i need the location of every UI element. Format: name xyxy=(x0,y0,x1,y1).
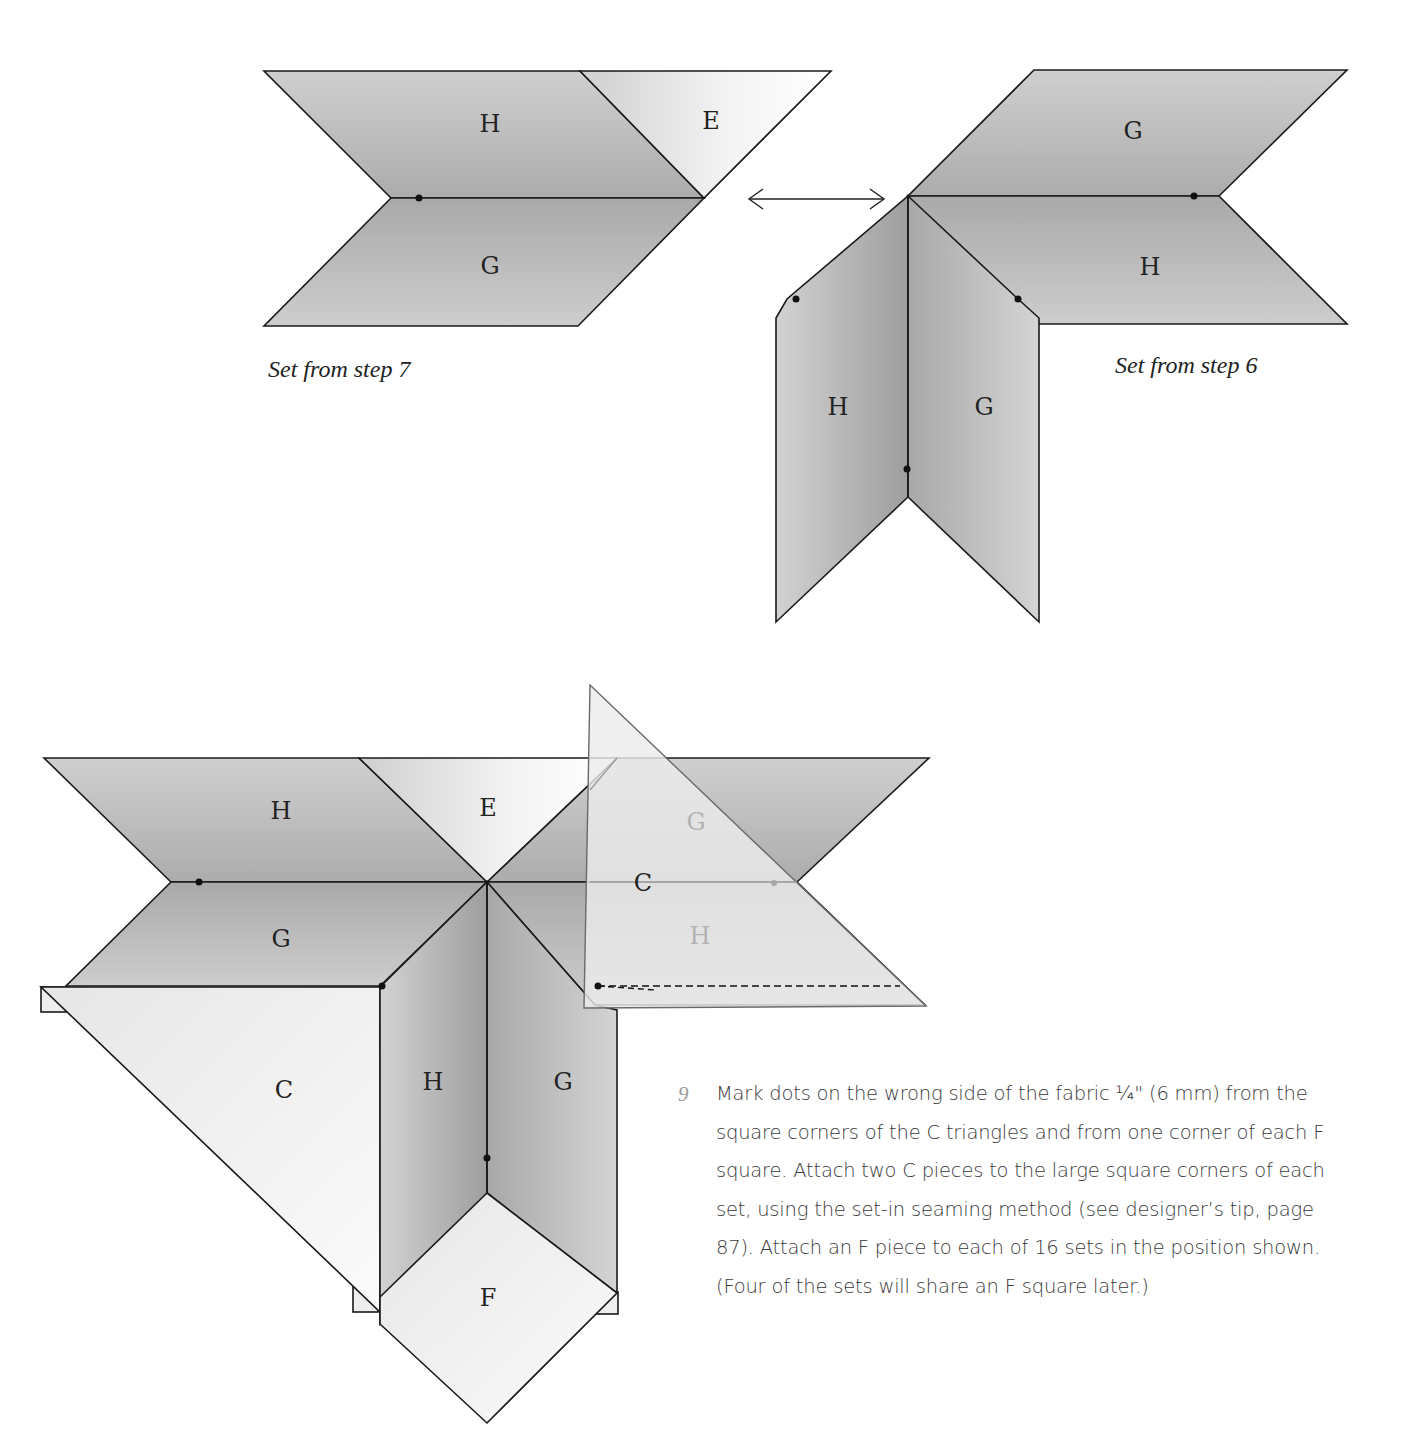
label-h: H xyxy=(1140,253,1161,281)
label-h: H xyxy=(828,393,849,421)
label-g: G xyxy=(974,393,993,421)
set-from-step-6-figure xyxy=(776,70,1347,622)
caption-set-from-step-7: Set from step 7 xyxy=(268,356,410,383)
label-c: C xyxy=(275,1076,293,1104)
label-e: E xyxy=(479,794,497,822)
seam-dot xyxy=(1015,296,1022,303)
label-g: G xyxy=(271,925,290,953)
label-h: H xyxy=(480,110,501,138)
step-text: Mark dots on the wrong side of the fabri… xyxy=(716,1075,1356,1306)
label-c: C xyxy=(634,869,652,897)
seam-dot xyxy=(196,879,203,886)
step-number: 9 xyxy=(678,1075,689,1113)
label-h: H xyxy=(271,797,292,825)
seam-dot xyxy=(416,195,423,202)
label-g-faint: G xyxy=(686,808,705,836)
piece-c-right xyxy=(584,685,926,1008)
seam-dot xyxy=(904,466,911,473)
label-h-faint: H xyxy=(690,922,711,950)
label-h: H xyxy=(423,1068,444,1096)
seam-dot xyxy=(595,983,602,990)
label-g: G xyxy=(1123,117,1142,145)
seam-dot xyxy=(484,1155,491,1162)
set-from-step-7-figure xyxy=(264,71,831,326)
seam-dot xyxy=(1191,193,1198,200)
piece-c-left xyxy=(41,987,380,1312)
double-headed-arrow-icon xyxy=(749,189,884,209)
label-e: E xyxy=(702,107,720,135)
caption-set-from-step-6: Set from step 6 xyxy=(1115,352,1257,379)
label-g: G xyxy=(553,1068,572,1096)
label-g: G xyxy=(480,252,499,280)
seam-dot-faint xyxy=(771,880,777,886)
label-f: F xyxy=(480,1284,497,1312)
seam-dot xyxy=(379,983,386,990)
seam-dot xyxy=(793,296,800,303)
